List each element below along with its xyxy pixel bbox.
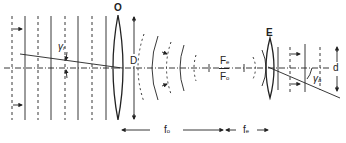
eyepiece-label: E [266,28,273,38]
focal-length-o-label: fo [164,125,170,135]
focal-point-o-label: Fo [220,72,229,82]
gamma-a-label: γa [313,74,321,84]
telescope-diagram: O E D d Fe Fo γr γa fo fe [0,0,346,143]
aperture-label: D [130,56,137,66]
fraction-bar [219,68,229,69]
focal-length-e-label: fe [243,125,249,135]
focal-point-e-label: Fe [220,56,229,66]
gamma-r-label: γr [58,42,65,52]
exit-pupil-label: d [333,63,339,73]
objective-label: O [114,3,122,13]
diagram-canvas [0,0,346,143]
exit-ray [268,67,340,98]
incoming-ray [20,54,122,68]
